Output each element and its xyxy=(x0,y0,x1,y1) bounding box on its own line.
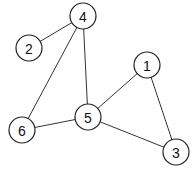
graph-diagram: 421563 xyxy=(0,0,192,172)
node-label: 3 xyxy=(172,145,180,161)
node-3: 3 xyxy=(163,139,189,165)
node-4: 4 xyxy=(70,3,96,29)
edge-4-5 xyxy=(83,16,88,117)
edge-5-3 xyxy=(88,117,176,152)
node-2: 2 xyxy=(16,35,42,61)
edge-1-3 xyxy=(147,65,176,152)
node-label: 1 xyxy=(143,58,151,74)
node-label: 6 xyxy=(18,123,26,139)
node-5: 5 xyxy=(75,104,101,130)
edge-4-6 xyxy=(22,16,83,130)
nodes: 421563 xyxy=(9,3,189,165)
node-label: 5 xyxy=(84,110,92,126)
edges xyxy=(22,16,176,152)
node-6: 6 xyxy=(9,117,35,143)
node-label: 2 xyxy=(25,41,33,57)
node-label: 4 xyxy=(79,9,87,25)
node-1: 1 xyxy=(134,52,160,78)
